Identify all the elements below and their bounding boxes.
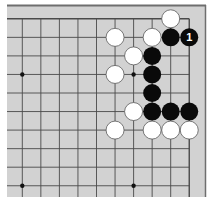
- stone-disc: [125, 47, 143, 65]
- stone-disc: [162, 103, 180, 121]
- stone-disc: [143, 47, 161, 65]
- black-stone[interactable]: [143, 47, 161, 65]
- black-stone[interactable]: [180, 103, 198, 121]
- black-stone[interactable]: [162, 28, 180, 46]
- white-stone[interactable]: [162, 121, 180, 139]
- star-point: [131, 72, 135, 76]
- black-stone[interactable]: [143, 65, 161, 83]
- black-stone[interactable]: 1: [180, 28, 198, 46]
- white-stone[interactable]: [106, 121, 124, 139]
- move-number-label: 1: [186, 31, 192, 43]
- stone-disc: [143, 103, 161, 121]
- stone-disc: [180, 103, 198, 121]
- stone-disc: [106, 65, 124, 83]
- stone-disc: [106, 28, 124, 46]
- stone-disc: [162, 121, 180, 139]
- stone-disc: [162, 10, 180, 28]
- stone-disc: [143, 28, 161, 46]
- stone-disc: [143, 121, 161, 139]
- white-stone[interactable]: [143, 28, 161, 46]
- stone-disc: [125, 103, 143, 121]
- stone-disc: [162, 28, 180, 46]
- stone-disc: [143, 65, 161, 83]
- black-stone[interactable]: [162, 103, 180, 121]
- white-stone[interactable]: [180, 121, 198, 139]
- white-stone[interactable]: [143, 121, 161, 139]
- white-stone[interactable]: [162, 10, 180, 28]
- white-stone[interactable]: [106, 65, 124, 83]
- black-stone[interactable]: [143, 84, 161, 102]
- star-point: [131, 184, 135, 188]
- star-point: [20, 184, 24, 188]
- black-stone[interactable]: [143, 103, 161, 121]
- stone-disc: [180, 121, 198, 139]
- star-point: [20, 72, 24, 76]
- white-stone[interactable]: [125, 103, 143, 121]
- stone-disc: [143, 84, 161, 102]
- stone-disc: [106, 121, 124, 139]
- white-stone[interactable]: [125, 47, 143, 65]
- white-stone[interactable]: [106, 28, 124, 46]
- go-board[interactable]: 1: [0, 0, 214, 207]
